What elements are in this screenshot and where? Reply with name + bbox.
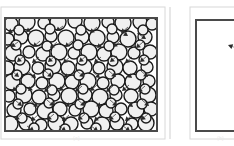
particle-circle [28,30,44,46]
figure-canvas [0,0,234,146]
particle-circle [109,85,119,95]
particle-circle [61,61,75,75]
particle-circle [76,25,86,35]
particle-circle [45,24,55,34]
right-panel-caption: (b) [217,135,224,141]
left-panel [0,7,165,139]
particle-circle [23,46,35,58]
figure-container: (a) (b) [0,0,234,146]
particle-circle [138,25,148,35]
particle-circle [42,41,52,51]
particle-circle [47,85,57,95]
particle-circle [93,62,105,74]
particle-circle [16,84,26,94]
particle-circle [139,55,149,65]
particle-circle [107,24,117,34]
particle-circle [24,103,36,115]
left-panel-caption: (a) [73,135,80,141]
particle-circle [104,41,114,51]
particle-circle [32,62,44,74]
particle-circle [73,40,83,50]
particle-circle [78,84,88,94]
particle-circle [123,61,137,75]
particle-circle [14,25,24,35]
particle-circle [13,99,23,109]
